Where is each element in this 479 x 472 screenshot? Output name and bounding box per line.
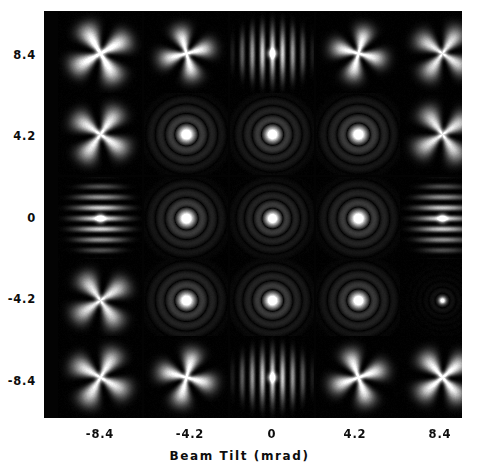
- diffractogram-tile: [400, 12, 462, 94]
- y-tick-0: 8.4: [0, 48, 36, 62]
- diffractogram-tile: [58, 12, 142, 94]
- diffractogram-tile: [58, 259, 142, 341]
- y-tick-2: 0: [0, 211, 36, 225]
- diffractogram-tile-canvas: [316, 259, 400, 341]
- y-tick-1: 4.2: [0, 129, 36, 143]
- x-tick-2: 0: [268, 427, 277, 441]
- diffractogram-tile: [144, 12, 228, 94]
- beam-tilt-tableau-figure: 8.4 4.2 0 -4.2 -8.4 -8.4 -4.2 0 4.2 8.4 …: [0, 0, 479, 472]
- diffractogram-grid: [44, 11, 462, 418]
- diffractogram-tile-canvas: [58, 336, 142, 418]
- diffractogram-tile-canvas: [230, 12, 314, 94]
- diffractogram-tile-canvas: [400, 93, 462, 175]
- diffractogram-tile: [400, 336, 462, 418]
- diffractogram-tile: [316, 177, 400, 259]
- diffractogram-tile-canvas: [230, 259, 314, 341]
- diffractogram-tile-canvas: [400, 12, 462, 94]
- diffractogram-tile: [316, 259, 400, 341]
- x-tick-4: 8.4: [429, 427, 452, 441]
- diffractogram-tile: [316, 12, 400, 94]
- x-tick-1: -4.2: [176, 427, 204, 441]
- diffractogram-tile-canvas: [316, 177, 400, 259]
- diffractogram-tile-canvas: [400, 177, 462, 259]
- diffractogram-tile-canvas: [316, 12, 400, 94]
- x-axis-title: Beam Tilt (mrad): [0, 449, 479, 463]
- diffractogram-tile-canvas: [400, 336, 462, 418]
- diffractogram-tile: [400, 177, 462, 259]
- diffractogram-tile-canvas: [144, 12, 228, 94]
- diffractogram-tile: [400, 93, 462, 175]
- diffractogram-tile: [230, 259, 314, 341]
- diffractogram-tile-canvas: [58, 12, 142, 94]
- diffractogram-tile-canvas: [230, 93, 314, 175]
- diffractogram-tile: [144, 177, 228, 259]
- diffractogram-tile: [144, 93, 228, 175]
- diffractogram-tile: [316, 336, 400, 418]
- y-axis-tick-labels: 8.4 4.2 0 -4.2 -8.4: [0, 0, 40, 472]
- diffractogram-tile: [58, 93, 142, 175]
- diffractogram-tile: [58, 177, 142, 259]
- diffractogram-tile-canvas: [144, 93, 228, 175]
- diffractogram-tile-canvas: [58, 259, 142, 341]
- x-tick-3: 4.2: [344, 427, 367, 441]
- diffractogram-tile: [400, 259, 462, 341]
- y-tick-3: -4.2: [0, 292, 36, 306]
- diffractogram-tile: [230, 12, 314, 94]
- diffractogram-tile: [144, 259, 228, 341]
- diffractogram-tile: [144, 336, 228, 418]
- diffractogram-tile: [230, 336, 314, 418]
- diffractogram-tile: [230, 93, 314, 175]
- diffractogram-tile: [58, 336, 142, 418]
- y-tick-4: -8.4: [0, 374, 36, 388]
- diffractogram-tile: [230, 177, 314, 259]
- diffractogram-tile-canvas: [144, 177, 228, 259]
- diffractogram-tile-canvas: [230, 336, 314, 418]
- diffractogram-tile-canvas: [144, 259, 228, 341]
- diffractogram-tile-canvas: [144, 336, 228, 418]
- diffractogram-tile-canvas: [58, 177, 142, 259]
- diffractogram-tile-canvas: [316, 93, 400, 175]
- diffractogram-tile: [316, 93, 400, 175]
- x-tick-0: -8.4: [86, 427, 114, 441]
- diffractogram-tile-canvas: [316, 336, 400, 418]
- diffractogram-tile-canvas: [230, 177, 314, 259]
- diffractogram-tile-canvas: [400, 259, 462, 341]
- plot-area: [44, 11, 462, 418]
- diffractogram-tile-canvas: [58, 93, 142, 175]
